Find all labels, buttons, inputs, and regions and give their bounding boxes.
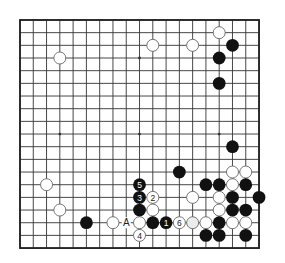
black-stone-icon [200,229,213,242]
black-stone [173,166,186,179]
white-stone [187,191,199,203]
white-stone-icon [147,204,159,216]
black-stone-icon [226,191,239,204]
black-stone-icon [226,39,239,52]
black-stone-icon [239,178,252,191]
go-board-diagram: 532164 A [0,0,285,263]
black-stone [213,178,226,191]
black-stone-icon [213,178,226,191]
black-stone-icon [173,166,186,179]
white-stone-icon [54,52,66,64]
black-stone [213,77,226,90]
move-number-label: 1 [164,218,169,228]
white-stone-icon [134,217,146,229]
black-stone-icon [133,204,146,217]
white-stone [213,27,225,39]
black-stone [213,229,226,242]
black-stone [80,216,93,229]
black-stone-icon [213,77,226,90]
black-stone-icon [239,204,252,217]
black-stone [239,229,252,242]
black-stone-icon [253,191,266,204]
star-point [138,57,141,60]
white-stone [213,191,225,203]
point-marker-label: A [123,217,130,228]
white-stone [213,204,225,216]
white-stone [240,166,252,178]
white-stone-icon [200,217,212,229]
white-stone [134,217,146,229]
white-stone: 4 [134,229,146,241]
black-stone [133,204,146,217]
black-stone [239,178,252,191]
black-stone [226,140,239,153]
go-board: 532164 A [0,0,285,263]
white-stone [147,204,159,216]
black-stone [213,52,226,65]
black-stone [200,178,213,191]
black-stone-icon [213,216,226,229]
black-stone [200,229,213,242]
white-stone-icon [213,27,225,39]
white-stone [226,166,238,178]
star-point [138,133,141,136]
white-stone-icon [213,191,225,203]
white-stone-icon [147,39,159,51]
white-stone-icon [187,217,199,229]
white-stone-icon [226,217,238,229]
move-number-label: 4 [137,231,142,241]
white-stone [54,204,66,216]
white-stone-icon [54,204,66,216]
move-number-label: 2 [150,193,155,203]
black-stone-icon [226,204,239,217]
white-stone [226,217,238,229]
white-stone [187,39,199,51]
white-stone-icon [187,191,199,203]
white-stone-icon [240,166,252,178]
black-stone [253,191,266,204]
black-stone [239,204,252,217]
black-stone [213,216,226,229]
black-stone: 5 [133,178,146,191]
move-number-label: 5 [137,180,142,190]
black-stone-icon [213,52,226,65]
move-number-label: 6 [177,218,182,228]
black-stone-icon [239,229,252,242]
white-stone-icon [41,179,53,191]
white-stone [107,217,119,229]
white-stone-icon [240,217,252,229]
white-stone-icon [226,166,238,178]
white-stone [240,217,252,229]
black-stone-icon [80,216,93,229]
black-stone: 3 [133,191,146,204]
star-point [58,133,61,136]
white-stone: 2 [147,191,159,203]
white-stone [147,39,159,51]
black-stone [226,191,239,204]
black-stone-icon [146,216,159,229]
star-point [218,133,221,136]
white-stone [41,179,53,191]
black-stone-icon [226,140,239,153]
black-stone-icon [213,229,226,242]
black-stone [226,39,239,52]
white-stone [187,217,199,229]
black-stone [226,204,239,217]
white-stone-icon [187,39,199,51]
move-number-label: 3 [137,193,142,203]
black-stone-icon [200,178,213,191]
white-stone-icon [213,204,225,216]
white-stone [226,179,238,191]
white-stone: 6 [173,217,185,229]
white-stone [54,52,66,64]
white-stone-icon [226,179,238,191]
black-stone [146,216,159,229]
board-markers: A [122,217,131,228]
white-stone [200,217,212,229]
white-stone-icon [107,217,119,229]
black-stone: 1 [160,216,173,229]
